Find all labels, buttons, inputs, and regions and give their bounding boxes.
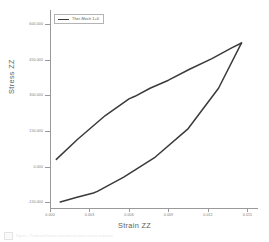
series-line-loading bbox=[56, 43, 241, 159]
line-swatch-icon bbox=[58, 19, 69, 20]
x-axis-title: Strain ZZ bbox=[0, 221, 269, 230]
y-axis-title: Stress ZZ bbox=[7, 29, 16, 125]
figure-caption-text: Figure - Predicted thermo-mechanical str… bbox=[16, 234, 113, 238]
chart-legend: Ther-Mech 1+0 bbox=[54, 14, 104, 24]
figure-caption: Figure - Predicted thermo-mechanical str… bbox=[4, 232, 266, 240]
data-curves bbox=[0, 0, 269, 242]
series-line-unloading bbox=[60, 43, 241, 202]
image-placeholder-icon bbox=[4, 232, 13, 240]
legend-entry-label: Ther-Mech 1+0 bbox=[72, 17, 99, 21]
chart-figure: 600.000450.000300.000150.0000.000-150.00… bbox=[0, 0, 269, 242]
